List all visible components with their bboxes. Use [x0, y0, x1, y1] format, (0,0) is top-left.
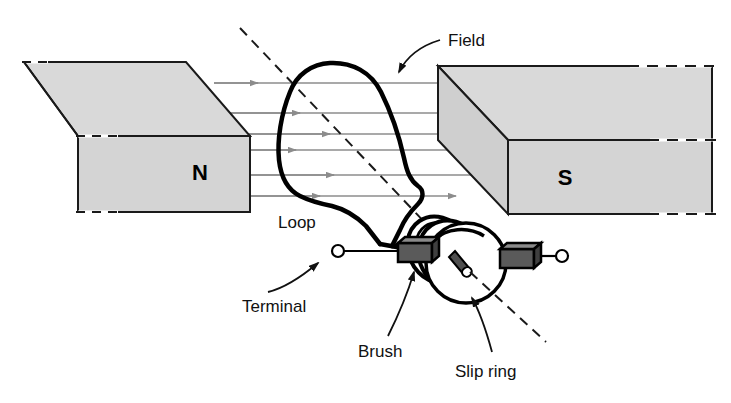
brush-left-side [432, 237, 439, 262]
brush-left [398, 237, 439, 262]
figure-canvas: N S [0, 0, 731, 403]
terminal-label: Terminal [242, 297, 306, 316]
pole-label-south: S [558, 165, 573, 190]
right-magnet-side-face [508, 140, 712, 214]
brush-right [500, 243, 541, 268]
loop-label: Loop [278, 213, 316, 232]
brush-right-side [534, 243, 541, 268]
generator-diagram: N S [0, 0, 731, 403]
slip-ring-label: Slip ring [455, 362, 516, 381]
terminal-left-post [332, 245, 344, 257]
pole-label-north: N [192, 160, 208, 185]
field-label: Field [448, 31, 485, 50]
left-magnet-front-face [78, 136, 250, 212]
brush-label: Brush [358, 342, 402, 361]
terminal-right-post [556, 250, 568, 262]
brush-right-body [500, 249, 534, 268]
brush-left-body [398, 243, 432, 262]
